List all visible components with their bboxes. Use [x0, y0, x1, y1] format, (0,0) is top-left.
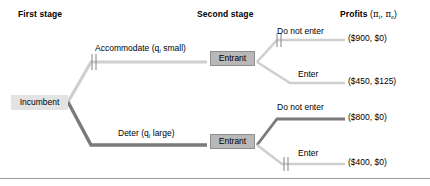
- edge-label-deter-head: Deter (q: [118, 128, 149, 138]
- do-not-enter-bottom-edge-line: [257, 119, 345, 145]
- bottom-divider: [0, 178, 430, 179]
- header-second-stage: Second stage: [197, 9, 253, 19]
- node-entrant-bottom: Entrant: [210, 134, 255, 149]
- header-first-stage: First stage: [18, 9, 62, 19]
- game-tree-diagram: First stage Second stage Profits (πi, πe…: [0, 0, 430, 186]
- pi-incumbent-subscript: i: [379, 14, 381, 20]
- header-profits-label: Profits: [340, 9, 368, 19]
- edge-label-deter-tail: large): [150, 128, 174, 138]
- accommodate-branch: [68, 54, 207, 102]
- edge-label-enter-top: Enter: [298, 69, 318, 79]
- edge-label-deter: Deter (qi large): [118, 128, 174, 139]
- payoff-accommodate-do-not-enter: ($900, $0): [348, 33, 387, 43]
- header-profits-symbols: (πi, πe): [368, 9, 397, 19]
- header-profits: Profits (πi, πe): [340, 9, 397, 20]
- node-entrant-top: Entrant: [210, 51, 255, 66]
- payoff-accommodate-enter: ($450, $125): [348, 76, 396, 86]
- edge-label-accommodate-tail: small): [161, 43, 186, 53]
- payoff-deter-enter: ($400, $0): [348, 157, 387, 167]
- pi-entrant-subscript: e: [391, 14, 394, 20]
- accommodate-edge-line: [68, 62, 207, 102]
- payoff-deter-do-not-enter: ($800, $0): [348, 112, 387, 122]
- edge-label-do-not-enter-top: Do not enter: [277, 26, 324, 36]
- do-not-enter-bottom-branch: [257, 119, 345, 145]
- node-incumbent: Incumbent: [11, 95, 68, 110]
- edge-label-enter-bottom: Enter: [298, 148, 318, 158]
- edge-label-accommodate-head: Accommodate (q: [95, 43, 159, 53]
- do-not-enter-top-edge-line: [257, 40, 345, 62]
- do-not-enter-top-branch: [257, 33, 345, 62]
- edge-label-accommodate: Accommodate (qi small): [95, 43, 186, 54]
- edge-label-do-not-enter-bottom: Do not enter: [277, 102, 324, 112]
